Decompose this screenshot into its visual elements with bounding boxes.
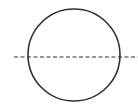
diagram-canvas xyxy=(0,0,138,111)
circle xyxy=(28,9,120,101)
